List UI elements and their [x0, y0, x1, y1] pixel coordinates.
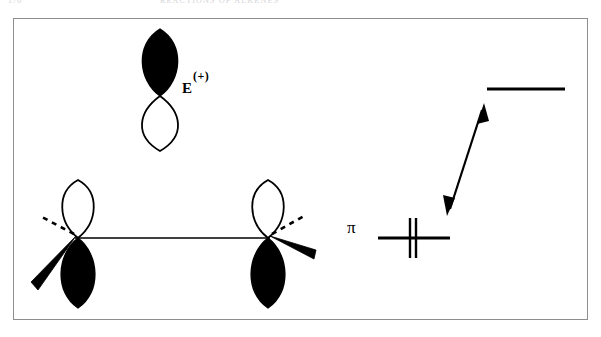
page-root: 176 REACTIONS OF ALKENES [0, 0, 601, 337]
right-carbon-empty-lobe [252, 180, 284, 238]
right-carbon-p-orbital [251, 180, 285, 308]
electrophile-filled-lobe [142, 29, 177, 96]
pi-level-label: π [347, 218, 356, 238]
electrophile-empty-lobe [142, 96, 178, 151]
electron-transition-arrow [443, 103, 489, 216]
left-carbon-p-orbital [61, 180, 95, 308]
orbital-diagram-canvas [0, 0, 601, 337]
electrophile-charge-superscript: (+) [193, 69, 209, 84]
right-carbon-filled-lobe [251, 238, 285, 308]
electrophile-p-orbital [142, 29, 178, 151]
transition-arrow-shaft [450, 110, 482, 209]
electrophile-label: E [182, 80, 192, 97]
transition-arrowhead-down [443, 195, 455, 216]
left-carbon-empty-lobe [62, 180, 94, 238]
transition-arrowhead-up [477, 103, 489, 124]
